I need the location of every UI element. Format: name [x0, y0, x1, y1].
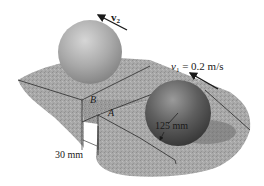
collision-diagram	[0, 0, 264, 186]
point-b-label: B	[90, 95, 96, 105]
point-a-label: A	[108, 108, 114, 118]
step-dimension	[82, 122, 98, 150]
v1-value: = 0.2 m/s	[179, 60, 223, 72]
v2-label: v2	[111, 12, 120, 25]
v1-label: v1 = 0.2 m/s	[171, 61, 224, 74]
radius-label: 125 mm	[155, 121, 188, 131]
upper-sphere	[58, 20, 122, 84]
step-height-label: 30 mm	[55, 150, 83, 160]
v2-subscript: 2	[117, 17, 121, 25]
